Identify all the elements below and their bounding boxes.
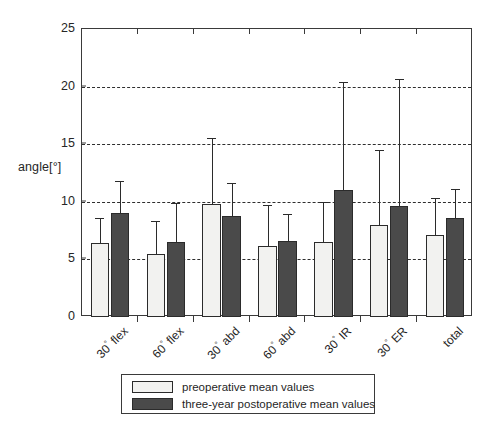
bar-post bbox=[446, 218, 465, 317]
error-bar-cap bbox=[263, 205, 272, 206]
x-axis-tick-label: 30° IR bbox=[322, 324, 354, 356]
x-axis-tick-mark-top bbox=[416, 28, 417, 34]
x-axis-tick-mark bbox=[249, 316, 250, 322]
error-bar-cap bbox=[115, 181, 124, 182]
legend-label-postoperative: three-year postoperative mean values bbox=[182, 398, 375, 410]
bar-post bbox=[390, 206, 409, 317]
error-bar-stem bbox=[156, 221, 157, 253]
x-axis-tick-mark-top bbox=[249, 28, 250, 34]
bar-pre bbox=[370, 225, 389, 317]
legend-label-preoperative: preoperative mean values bbox=[182, 381, 314, 393]
error-bar-cap bbox=[395, 79, 404, 80]
y-axis-tick-mark bbox=[81, 85, 86, 86]
y-axis-tick-mark bbox=[81, 200, 86, 201]
bar-post bbox=[278, 241, 297, 317]
error-bar-cap bbox=[95, 218, 104, 219]
bar-pre bbox=[202, 204, 221, 317]
error-bar-cap bbox=[227, 183, 236, 184]
bar-post bbox=[222, 216, 241, 317]
error-bar-cap bbox=[375, 150, 384, 151]
error-bar-stem bbox=[100, 218, 101, 243]
x-axis-tick-mark-top bbox=[360, 28, 361, 34]
bar-pre bbox=[91, 243, 110, 317]
y-axis-tick-mark bbox=[81, 143, 86, 144]
gridline bbox=[82, 144, 471, 145]
gridline bbox=[82, 202, 471, 203]
error-bar-stem bbox=[455, 189, 456, 218]
y-axis-tick-label: 20 bbox=[61, 79, 75, 93]
legend-swatch-preoperative bbox=[132, 381, 173, 393]
bar-post bbox=[111, 213, 130, 317]
x-axis-tick-mark bbox=[360, 316, 361, 322]
x-axis-tick-mark-top bbox=[304, 28, 305, 34]
error-bar-stem bbox=[212, 138, 213, 204]
error-bar-cap bbox=[171, 203, 180, 204]
error-bar-cap bbox=[339, 82, 348, 83]
x-axis-tick-label: total bbox=[440, 324, 466, 350]
error-bar-stem bbox=[343, 82, 344, 190]
bar-pre bbox=[258, 246, 277, 317]
legend: preoperative mean values three-year post… bbox=[121, 374, 375, 414]
error-bar-stem bbox=[232, 183, 233, 215]
bar-pre bbox=[147, 254, 166, 317]
legend-entry-preoperative: preoperative mean values bbox=[132, 379, 374, 395]
error-bar-cap bbox=[283, 214, 292, 215]
x-axis-tick-label: 30° flex bbox=[94, 324, 131, 361]
y-axis-tick-label: 10 bbox=[61, 194, 75, 208]
legend-swatch-postoperative bbox=[132, 398, 173, 410]
x-axis-tick-label: 30° ER bbox=[374, 324, 410, 360]
x-axis-tick-mark-top bbox=[137, 28, 138, 34]
error-bar-stem bbox=[120, 181, 121, 213]
x-axis-tick-label: 30° abd bbox=[204, 324, 242, 362]
x-axis-tick-mark bbox=[304, 316, 305, 322]
bar-chart: angle[°] 0510152025 30° flex60° flex30° … bbox=[0, 0, 499, 431]
y-axis-tick-labels: 0510152025 bbox=[52, 28, 75, 316]
y-axis-tick-label: 5 bbox=[68, 251, 75, 265]
x-axis-tick-mark-top bbox=[193, 28, 194, 34]
error-bar-stem bbox=[379, 150, 380, 225]
y-axis-tick-label: 0 bbox=[68, 309, 75, 323]
error-bar-stem bbox=[288, 214, 289, 240]
bar-pre bbox=[426, 235, 445, 317]
plot-area bbox=[81, 28, 472, 316]
error-bar-cap bbox=[431, 198, 440, 199]
y-axis-tick-label: 15 bbox=[61, 136, 75, 150]
bar-post bbox=[334, 190, 353, 317]
error-bar-stem bbox=[176, 203, 177, 242]
y-axis-tick-label: 25 bbox=[61, 21, 75, 35]
error-bar-cap bbox=[207, 138, 216, 139]
error-bar-stem bbox=[323, 202, 324, 242]
x-axis-tick-mark bbox=[416, 316, 417, 322]
x-axis-tick-label: 60° abd bbox=[260, 324, 298, 362]
error-bar-cap bbox=[451, 189, 460, 190]
legend-entry-postoperative: three-year postoperative mean values bbox=[132, 396, 374, 412]
error-bar-cap bbox=[319, 202, 328, 203]
x-axis-tick-label: 60° flex bbox=[150, 324, 187, 361]
gridline bbox=[82, 87, 471, 88]
error-bar-stem bbox=[435, 198, 436, 235]
y-axis-tick-mark bbox=[81, 258, 86, 259]
error-bar-cap bbox=[151, 221, 160, 222]
error-bar-stem bbox=[399, 79, 400, 207]
x-axis-tick-mark bbox=[193, 316, 194, 322]
bar-pre bbox=[314, 242, 333, 317]
bar-post bbox=[167, 242, 186, 317]
x-axis-tick-mark bbox=[137, 316, 138, 322]
error-bar-stem bbox=[268, 205, 269, 245]
